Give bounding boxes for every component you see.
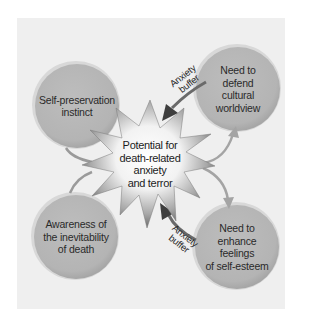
center-label: Potential for death-related anxiety and … <box>105 138 195 190</box>
node-awareness-death-label: Awareness of the inevitability of death <box>32 215 120 259</box>
arrow-center-to-self-esteem <box>203 168 234 209</box>
node-cultural-worldview-label: Need to defend cultural worldview <box>198 62 278 116</box>
arrow-awareness-to-center <box>70 172 92 193</box>
arrow-center-to-cultural-worldview <box>203 126 239 163</box>
node-self-esteem-label: Need to enhance feelings of self-esteem <box>195 220 279 274</box>
arrow-self-preservation-to-center <box>66 148 92 162</box>
node-self-preservation-label: Self-preservation instinct <box>33 86 121 126</box>
